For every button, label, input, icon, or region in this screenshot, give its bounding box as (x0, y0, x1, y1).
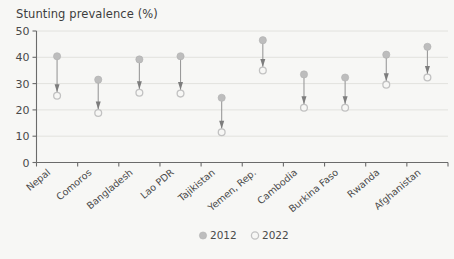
legend-label-2012: 2012 (210, 229, 237, 241)
marker-2012 (95, 76, 102, 83)
data-point-group (383, 51, 390, 88)
data-point-group (95, 76, 102, 116)
legend-marker-2012 (199, 232, 206, 239)
stunting-prevalence-chart: Stunting prevalence (%) 01020304050 Nepa… (0, 0, 454, 259)
data-point-group (177, 53, 184, 97)
marker-2012 (342, 74, 349, 81)
marker-2022 (342, 104, 349, 111)
data-point-group (53, 53, 60, 99)
data-point-group (342, 74, 349, 111)
arrow-head-icon (178, 82, 183, 90)
arrow-head-icon (260, 59, 265, 67)
arrow-head-icon (137, 81, 142, 89)
y-tick-label: 40 (16, 51, 30, 64)
marker-2012 (177, 53, 184, 60)
arrow-head-icon (301, 96, 306, 104)
marker-2012 (424, 43, 431, 50)
x-axis-ticks-group (37, 163, 449, 167)
legend-marker-2022 (251, 232, 258, 239)
marker-2022 (424, 74, 431, 81)
y-axis-ticks-group: 01020304050 (16, 25, 37, 170)
data-point-group (136, 56, 143, 96)
marker-2012 (259, 37, 266, 44)
marker-2022 (136, 89, 143, 96)
data-point-group (218, 94, 225, 135)
y-tick-label: 0 (23, 157, 30, 170)
arrow-head-icon (425, 66, 430, 74)
marker-2022 (54, 92, 61, 99)
marker-2022 (301, 104, 308, 111)
marker-2022 (95, 110, 102, 117)
arrow-head-icon (55, 84, 60, 92)
marker-2012 (300, 71, 307, 78)
y-tick-label: 50 (16, 25, 30, 38)
arrow-head-icon (219, 121, 224, 129)
x-category-label: Lao PDR (138, 166, 176, 200)
data-point-group (424, 43, 431, 81)
marker-2012 (218, 94, 225, 101)
data-point-group (259, 37, 266, 74)
y-tick-label: 10 (16, 130, 30, 143)
marker-2022 (218, 129, 225, 136)
chart-legend: 20122022 (199, 229, 288, 241)
marker-2012 (53, 53, 60, 60)
x-category-label: Tajikistan (175, 167, 217, 205)
marker-2022 (177, 90, 184, 97)
x-category-label: Comoros (54, 167, 94, 203)
marker-2012 (383, 51, 390, 58)
arrow-head-icon (96, 102, 101, 110)
y-tick-label: 30 (16, 78, 30, 91)
y-tick-label: 20 (16, 104, 30, 117)
arrow-head-icon (384, 73, 389, 81)
legend-label-2022: 2022 (262, 229, 289, 241)
category-labels-group: NepalComorosBangladeshLao PDRTajikistanY… (24, 166, 423, 214)
marker-2022 (383, 81, 390, 88)
x-category-label: Rwanda (345, 167, 382, 200)
arrow-head-icon (343, 96, 348, 104)
chart-plot-area: 01020304050 NepalComorosBangladeshLao PD… (0, 0, 454, 259)
marker-2012 (136, 56, 143, 63)
marker-2022 (259, 67, 266, 74)
data-marks-group (53, 37, 431, 136)
x-category-label: Nepal (24, 167, 52, 193)
data-point-group (300, 71, 307, 111)
